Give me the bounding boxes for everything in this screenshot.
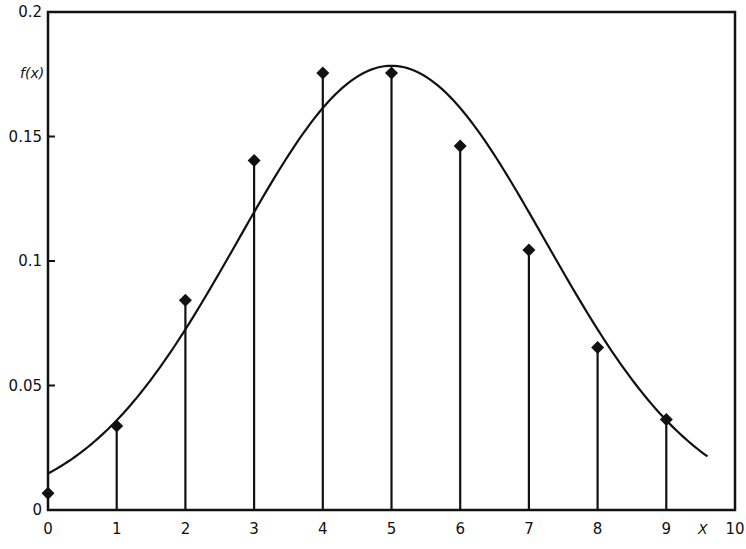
diamond-marker (42, 487, 55, 500)
diamond-marker (454, 139, 467, 152)
x-tick-label: 9 (662, 520, 672, 538)
stem-point (316, 67, 329, 510)
chart: 00.050.10.150.2 012345678910 f(x) X (0, 0, 746, 549)
diamond-marker (179, 294, 192, 307)
x-tick-label: 10 (725, 520, 744, 538)
x-tick-label: 0 (43, 520, 53, 538)
x-tick-label: 2 (181, 520, 191, 538)
stems (42, 67, 673, 510)
stem-point (248, 154, 261, 510)
diamond-marker (316, 67, 329, 80)
y-tick-label: 0 (32, 501, 42, 519)
stem-point (42, 487, 55, 500)
y-tick-label: 0.2 (18, 3, 42, 21)
diamond-marker (591, 341, 604, 354)
diamond-marker (110, 420, 123, 433)
stem-point (179, 294, 192, 510)
stem-point (660, 413, 673, 510)
y-tick-label: 0.05 (9, 377, 42, 395)
stem-point (385, 67, 398, 510)
stem-point (110, 420, 123, 510)
x-tick-label: 7 (524, 520, 534, 538)
stem-point (591, 341, 604, 510)
x-axis-ticks: 012345678910 (43, 520, 744, 538)
y-tick-label: 0.1 (18, 252, 42, 270)
x-tick-label: 1 (112, 520, 122, 538)
diamond-marker (248, 154, 261, 167)
normal-curve (48, 66, 708, 474)
stem-point (522, 244, 535, 510)
diamond-marker (522, 244, 535, 257)
y-axis-label: f(x) (20, 65, 44, 81)
x-tick-label: 6 (455, 520, 465, 538)
x-tick-label: 4 (318, 520, 328, 538)
stem-point (454, 139, 467, 510)
x-axis-label: X (697, 521, 708, 537)
diamond-marker (385, 67, 398, 80)
x-tick-label: 3 (249, 520, 259, 538)
x-tick-label: 8 (593, 520, 603, 538)
y-tick-label: 0.15 (9, 128, 42, 146)
x-tick-label: 5 (387, 520, 397, 538)
